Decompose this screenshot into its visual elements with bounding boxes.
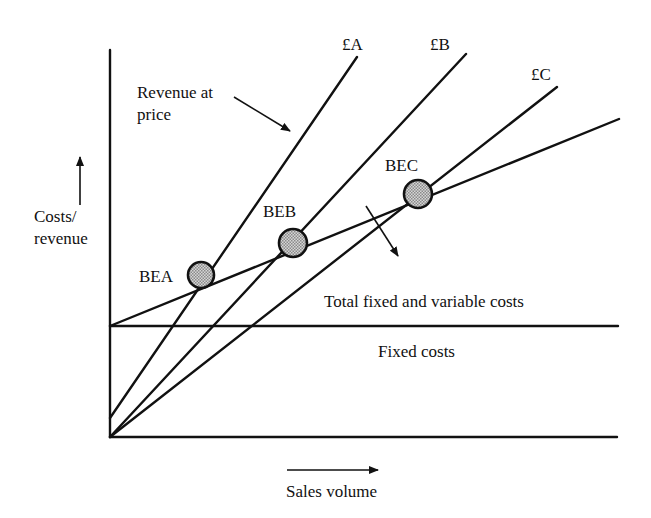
revenue-annotation-line1: Revenue at xyxy=(137,83,213,102)
revenue-annotation-line2: price xyxy=(137,105,171,124)
revenue-line-c xyxy=(110,87,557,437)
break-even-point-a xyxy=(188,262,214,288)
shift-arrow-icon xyxy=(366,206,398,256)
x-axis-label: Sales volume xyxy=(286,482,377,501)
break-even-point-c xyxy=(404,180,432,208)
fixed-costs-label: Fixed costs xyxy=(378,342,455,361)
y-axis-label-line2: revenue xyxy=(34,229,88,248)
break-even-point-a-label: BEA xyxy=(139,267,174,286)
revenue-line-a-label: £A xyxy=(342,35,364,54)
y-axis-label-line1: Costs/ xyxy=(34,207,77,226)
revenue-line-c-label: £C xyxy=(531,65,551,84)
break-even-point-b xyxy=(279,229,307,257)
revenue-line-b-label: £B xyxy=(430,35,450,54)
break-even-point-b-label: BEB xyxy=(263,202,296,221)
break-even-point-c-label: BEC xyxy=(385,156,418,175)
total-costs-label: Total fixed and variable costs xyxy=(324,292,524,311)
revenue-arrow-icon xyxy=(234,97,290,131)
break-even-diagram: £A £B £C Revenue at price Costs/ revenue… xyxy=(0,0,651,518)
